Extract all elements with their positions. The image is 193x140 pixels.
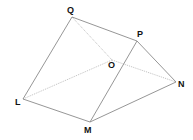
hidden-edge-on	[112, 60, 176, 82]
hidden-edge-lo	[23, 60, 112, 99]
solid-edges	[23, 17, 176, 122]
edge-mn	[90, 82, 176, 122]
vertex-label-o: O	[108, 60, 115, 70]
edge-ql	[23, 17, 72, 99]
hidden-edge-qo	[72, 17, 112, 60]
edge-pq	[72, 17, 137, 41]
edge-lm	[23, 99, 90, 122]
vertex-label-q: Q	[67, 5, 74, 15]
diagram-canvas: Q P O N L M	[0, 0, 193, 140]
prism-diagram: Q P O N L M	[0, 0, 193, 140]
vertex-label-p: P	[137, 29, 143, 39]
edge-pm	[90, 41, 137, 122]
vertex-label-l: L	[15, 97, 21, 107]
vertex-label-m: M	[84, 125, 92, 135]
edge-np	[137, 41, 176, 82]
vertex-label-n: N	[178, 79, 185, 89]
